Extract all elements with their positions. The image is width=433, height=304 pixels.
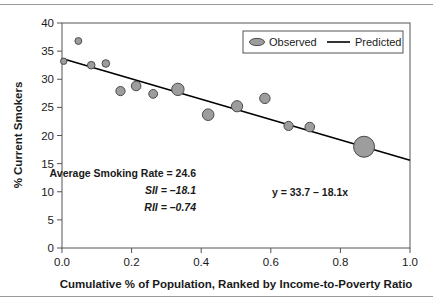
figure-container: 0510152025303540 0.00.20.40.60.81.0 % Cu… xyxy=(0,0,433,304)
y-axis-ticks: 0510152025303540 xyxy=(41,17,62,254)
chart-legend: Observed Predicted xyxy=(243,31,403,53)
data-point xyxy=(202,109,214,121)
x-axis-ticks: 0.00.20.40.60.81.0 xyxy=(54,248,418,268)
data-point xyxy=(231,101,242,112)
y-tick-label: 25 xyxy=(41,101,54,113)
y-tick-label: 20 xyxy=(41,130,54,142)
data-point xyxy=(284,121,293,130)
y-tick-label: 30 xyxy=(41,73,54,85)
x-tick-label: 0.6 xyxy=(263,256,279,268)
y-tick-label: 5 xyxy=(48,214,54,226)
data-point xyxy=(149,89,158,98)
data-point xyxy=(260,93,270,103)
x-tick-label: 1.0 xyxy=(402,256,418,268)
data-point xyxy=(131,81,141,91)
legend-observed-marker-icon xyxy=(250,38,265,45)
x-tick-label: 0.0 xyxy=(54,256,70,268)
data-point xyxy=(61,58,67,64)
data-point xyxy=(116,86,125,95)
average-smoking-rate-annotation: Average Smoking Rate = 24.6 xyxy=(50,167,197,179)
legend-predicted-label: Predicted xyxy=(355,36,401,48)
scatter-plot: 0510152025303540 0.00.20.40.60.81.0 % Cu… xyxy=(0,0,433,304)
y-tick-label: 10 xyxy=(41,186,54,198)
y-tick-label: 40 xyxy=(41,17,54,29)
x-tick-label: 0.8 xyxy=(332,256,348,268)
rii-annotation: RII = –0.74 xyxy=(144,201,196,213)
x-tick-label: 0.4 xyxy=(193,256,210,268)
x-axis-title: Cumulative % of Population, Ranked by In… xyxy=(60,278,413,290)
regression-equation-annotation: y = 33.7 – 18.1x xyxy=(272,186,348,198)
data-point xyxy=(354,136,375,157)
data-point xyxy=(102,60,110,68)
observed-data-points xyxy=(61,38,375,158)
data-point xyxy=(305,122,315,132)
x-tick-label: 0.2 xyxy=(124,256,140,268)
data-point xyxy=(75,38,82,45)
sii-annotation: SII = –18.1 xyxy=(145,184,196,196)
data-point xyxy=(172,83,184,95)
data-point xyxy=(87,61,95,69)
y-tick-label: 0 xyxy=(48,242,54,254)
y-tick-label: 35 xyxy=(41,45,54,57)
legend-observed-label: Observed xyxy=(269,36,317,48)
y-axis-title: % Current Smokers xyxy=(12,82,24,189)
plot-frame xyxy=(62,23,410,248)
